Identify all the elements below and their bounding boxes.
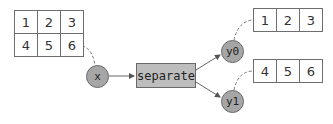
output-table-y0: 1 2 3 <box>253 8 323 32</box>
table-cell: 2 <box>277 9 300 32</box>
table-cell: 2 <box>38 11 61 34</box>
table-cell: 5 <box>277 60 300 83</box>
dashed-link-y0 <box>234 20 252 40</box>
diagram-canvas: 1 2 3 4 5 6 x separate y0 y1 1 2 3 4 5 6 <box>0 0 333 124</box>
input-table: 1 2 3 4 5 6 <box>14 10 84 57</box>
table-row: 4 5 6 <box>254 60 323 83</box>
output-table-y1: 4 5 6 <box>253 59 323 83</box>
table-cell: 3 <box>61 11 84 34</box>
output-node-y1: y1 <box>221 90 244 113</box>
table-cell: 1 <box>15 11 38 34</box>
table-cell: 4 <box>254 60 277 83</box>
dashed-link-y1 <box>234 71 252 90</box>
table-row: 4 5 6 <box>15 34 84 57</box>
output-node-y0: y0 <box>221 40 244 63</box>
input-node-x: x <box>86 65 109 88</box>
edge-separate-to-y1 <box>196 82 220 97</box>
table-row: 1 2 3 <box>15 11 84 34</box>
edge-separate-to-y0 <box>196 55 220 70</box>
function-node-separate: separate <box>136 63 196 88</box>
table-cell: 1 <box>254 9 277 32</box>
table-cell: 6 <box>61 34 84 57</box>
table-cell: 6 <box>300 60 323 83</box>
table-row: 1 2 3 <box>254 9 323 32</box>
table-cell: 4 <box>15 34 38 57</box>
table-cell: 3 <box>300 9 323 32</box>
table-cell: 5 <box>38 34 61 57</box>
